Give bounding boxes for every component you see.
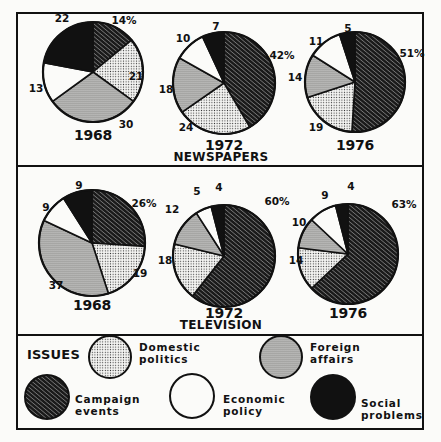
legend-swatch-social-problems [311,375,355,419]
legend-swatch-domestic-politics [89,336,131,378]
legend-label-domestic-politics: Domestic politics [139,341,200,365]
legend-label-foreign-affairs: Foreign affairs [310,341,360,365]
legend-swatch-economic-policy [170,374,214,418]
legend-label-campaign-events: Campaign events [75,393,140,417]
legend-swatch-foreign-affairs [260,336,302,378]
legend-label-economic-policy: Economic policy [223,393,285,417]
legend-label-social-problems: Social problems [361,397,423,421]
legend-swatches [0,0,441,442]
legend-swatch-campaign-events [25,375,69,419]
